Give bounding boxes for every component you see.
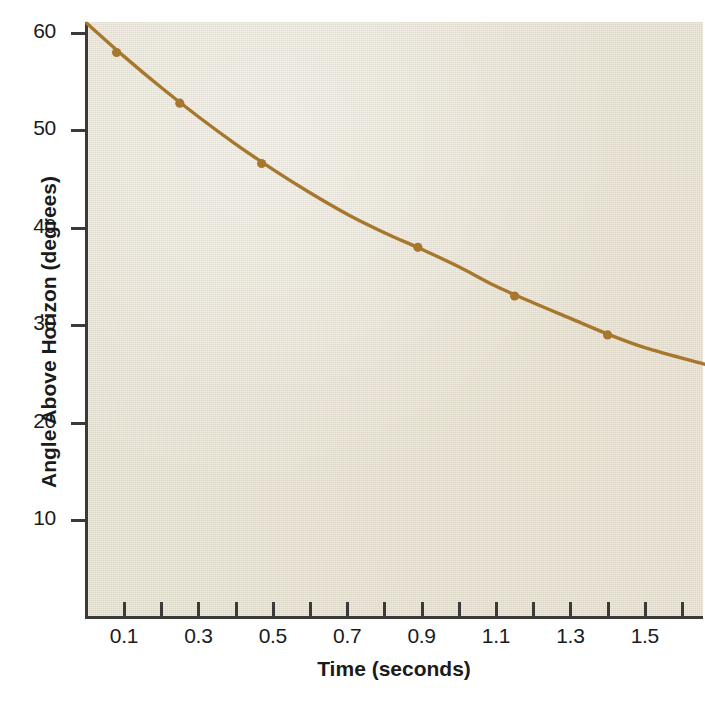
plot-area xyxy=(87,22,703,617)
x-tick-1.5 xyxy=(644,602,647,617)
x-tick-label-0.9: 0.9 xyxy=(392,624,452,648)
x-tick-0.6 xyxy=(309,602,312,617)
y-tick-30 xyxy=(71,324,86,327)
x-tick-1.3 xyxy=(569,602,572,617)
x-tick-1.6 xyxy=(681,602,684,617)
x-tick-0.7 xyxy=(346,602,349,617)
y-tick-40 xyxy=(71,227,86,230)
x-tick-label-0.3: 0.3 xyxy=(168,624,228,648)
y-axis-line xyxy=(85,22,88,619)
x-axis-line xyxy=(85,616,703,619)
x-axis-title: Time (seconds) xyxy=(85,657,703,681)
x-tick-0.1 xyxy=(123,602,126,617)
x-tick-label-0.1: 0.1 xyxy=(94,624,154,648)
y-tick-50 xyxy=(71,129,86,132)
x-tick-0.3 xyxy=(197,602,200,617)
x-tick-label-1.5: 1.5 xyxy=(615,624,675,648)
x-tick-1.1 xyxy=(495,602,498,617)
x-tick-label-1.3: 1.3 xyxy=(540,624,600,648)
x-tick-0.8 xyxy=(383,602,386,617)
chart-figure: 605040302010 0.10.30.50.70.91.11.31.5 An… xyxy=(0,0,705,702)
x-tick-label-0.7: 0.7 xyxy=(317,624,377,648)
y-tick-10 xyxy=(71,519,86,522)
x-tick-1 xyxy=(458,602,461,617)
y-tick-label-60: 60 xyxy=(10,19,56,43)
x-tick-1.2 xyxy=(532,602,535,617)
x-tick-label-0.5: 0.5 xyxy=(243,624,303,648)
x-tick-0.4 xyxy=(235,602,238,617)
y-tick-20 xyxy=(71,422,86,425)
x-tick-0.9 xyxy=(421,602,424,617)
x-tick-label-1.1: 1.1 xyxy=(466,624,526,648)
x-tick-0.2 xyxy=(160,602,163,617)
y-tick-60 xyxy=(71,32,86,35)
x-tick-1.4 xyxy=(607,602,610,617)
x-tick-0.5 xyxy=(272,602,275,617)
y-axis-title: Angle Above Horizon (degrees) xyxy=(37,132,61,532)
